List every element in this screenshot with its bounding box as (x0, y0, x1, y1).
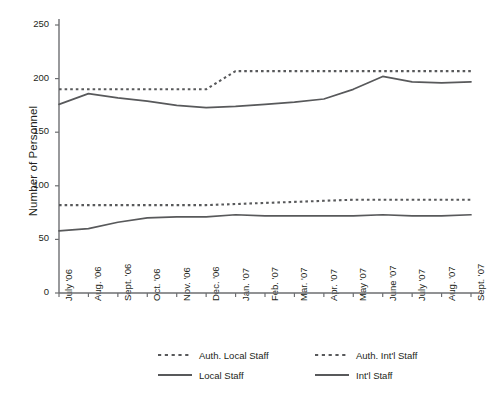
series-line (59, 76, 471, 107)
dashed-line-icon (314, 350, 350, 360)
dashed-line-icon (157, 350, 193, 360)
legend-label: Auth. Int'l Staff (356, 350, 417, 361)
chart-figure: Number of Personnel 050100150200250 July… (0, 0, 499, 394)
data-series (59, 71, 471, 231)
solid-line-icon (314, 370, 350, 380)
legend-label: Int'l Staff (356, 370, 393, 381)
axes (55, 19, 479, 297)
legend-item[interactable]: Auth. Local Staff (157, 348, 269, 362)
series-line (59, 71, 471, 89)
solid-line-icon (157, 370, 193, 380)
legend-item[interactable]: Int'l Staff (314, 368, 393, 382)
chart-legend: Auth. Local StaffAuth. Int'l StaffLocal … (157, 348, 467, 388)
legend-label: Local Staff (199, 370, 244, 381)
legend-label: Auth. Local Staff (199, 350, 269, 361)
plot-area (0, 0, 499, 394)
legend-item[interactable]: Auth. Int'l Staff (314, 348, 417, 362)
legend-item[interactable]: Local Staff (157, 368, 244, 382)
series-line (59, 200, 471, 205)
series-line (59, 215, 471, 231)
